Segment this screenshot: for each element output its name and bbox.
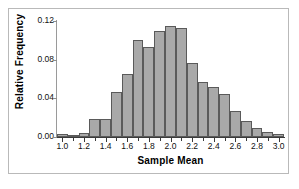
- histogram-bar: [208, 87, 219, 137]
- x-tick-label: 1.6: [115, 141, 139, 151]
- histogram-bar: [187, 63, 198, 137]
- x-axis-tick-labels: 1.01.21.41.61.82.02.22.42.62.83.0: [0, 141, 299, 155]
- histogram-figure: Relative Frequency 0.000.040.080.12 1.01…: [0, 0, 299, 189]
- y-tick-mark: [53, 98, 57, 99]
- histogram-bar: [154, 31, 165, 137]
- histogram-bar: [57, 134, 68, 137]
- histogram-bar: [230, 111, 241, 137]
- y-tick-mark: [53, 137, 57, 138]
- y-tick-mark: [53, 60, 57, 61]
- histogram-bar: [89, 119, 100, 137]
- x-axis-title: Sample Mean: [57, 155, 284, 166]
- x-tick-label: 2.6: [223, 141, 247, 151]
- x-tick-label: 2.0: [159, 141, 183, 151]
- histogram-bar: [262, 132, 273, 137]
- histogram-bars: [57, 21, 284, 137]
- x-tick-label: 3.0: [267, 141, 291, 151]
- histogram-bar: [68, 135, 79, 137]
- histogram-bar: [133, 40, 144, 137]
- x-tick-label: 1.2: [72, 141, 96, 151]
- y-tick-label: 0.04: [20, 93, 54, 102]
- x-tick-label: 2.8: [245, 141, 269, 151]
- histogram-bar: [122, 74, 133, 137]
- histogram-bar: [165, 26, 176, 137]
- x-tick-label: 1.0: [50, 141, 74, 151]
- histogram-bar: [143, 47, 154, 137]
- histogram-bar: [219, 94, 230, 138]
- y-tick-label: 0.00: [20, 132, 54, 141]
- y-tick-label: 0.12: [20, 16, 54, 25]
- histogram-bar: [100, 119, 111, 137]
- histogram-bar: [241, 121, 252, 137]
- y-tick-mark: [53, 21, 57, 22]
- x-tick-label: 1.8: [137, 141, 161, 151]
- y-axis-tick-labels: 0.000.040.080.12: [16, 0, 54, 160]
- histogram-bar: [252, 128, 263, 137]
- x-tick-label: 2.2: [180, 141, 204, 151]
- y-tick-label: 0.08: [20, 55, 54, 64]
- x-tick-label: 2.4: [202, 141, 226, 151]
- x-tick-label: 1.4: [94, 141, 118, 151]
- histogram-bar: [273, 134, 284, 137]
- histogram-bar: [111, 92, 122, 137]
- histogram-bar: [79, 133, 90, 137]
- histogram-bar: [176, 28, 187, 137]
- plot-area: [57, 21, 284, 137]
- histogram-bar: [198, 82, 209, 137]
